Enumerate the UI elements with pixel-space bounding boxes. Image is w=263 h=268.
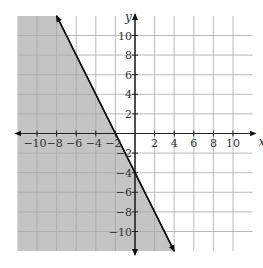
y-tick-label: 2 bbox=[125, 108, 132, 121]
y-tick-label: 8 bbox=[125, 49, 132, 62]
x-tick-label: 8 bbox=[210, 137, 217, 150]
x-tick-label: −6 bbox=[66, 137, 82, 150]
y-tick-label: 4 bbox=[125, 88, 132, 101]
x-axis-label: x bbox=[259, 135, 263, 149]
x-tick-label: 4 bbox=[171, 137, 178, 150]
x-tick-label: −8 bbox=[46, 137, 62, 150]
y-tick-label: −8 bbox=[116, 206, 132, 219]
x-tick-label: 6 bbox=[190, 137, 197, 150]
y-tick-label: 6 bbox=[125, 69, 132, 82]
y-tick-label: −4 bbox=[116, 167, 132, 180]
x-tick-label: 2 bbox=[151, 137, 158, 150]
y-tick-label: −6 bbox=[116, 186, 132, 199]
inequality-graph: −10−8−6−4−2246810108642−2−4−6−8−10xy bbox=[0, 0, 263, 268]
y-tick-label: −2 bbox=[116, 147, 132, 160]
x-tick-label: 10 bbox=[226, 137, 240, 150]
y-tick-label: −10 bbox=[109, 226, 132, 239]
x-tick-label: −10 bbox=[23, 137, 46, 150]
y-tick-label: 10 bbox=[118, 30, 132, 43]
y-axis-label: y bbox=[124, 10, 132, 24]
x-tick-label: −4 bbox=[86, 137, 102, 150]
chart-canvas: −10−8−6−4−2246810108642−2−4−6−8−10xy bbox=[0, 0, 263, 268]
